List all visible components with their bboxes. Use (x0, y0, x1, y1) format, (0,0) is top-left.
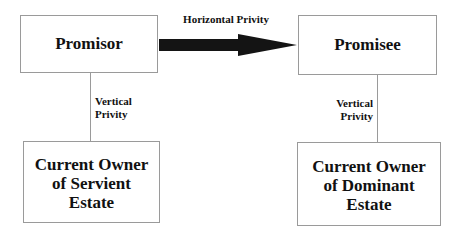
vertical-privity-line-left (90, 73, 91, 141)
servient-line2: of Servient (35, 174, 148, 193)
promisee-label: Promisee (334, 35, 401, 55)
dominant-line3: Estate (312, 195, 425, 214)
vertical-privity-line-right (377, 75, 378, 142)
vertical-label-line2: Privity (322, 110, 373, 123)
vertical-label-line2: Privity (95, 108, 132, 121)
vertical-privity-label-left: Vertical Privity (95, 95, 132, 121)
vertical-label-line1: Vertical (322, 97, 373, 110)
servient-line1: Current Owner (35, 155, 148, 174)
dominant-owner-box: Current Owner of Dominant Estate (297, 142, 441, 226)
promisee-box: Promisee (298, 15, 437, 75)
vertical-label-line1: Vertical (95, 95, 132, 108)
dominant-line1: Current Owner (312, 157, 425, 176)
vertical-privity-label-right: Vertical Privity (322, 97, 373, 123)
servient-owner-box: Current Owner of Servient Estate (23, 141, 160, 223)
servient-line3: Estate (35, 193, 148, 212)
dominant-line2: of Dominant (312, 176, 425, 195)
